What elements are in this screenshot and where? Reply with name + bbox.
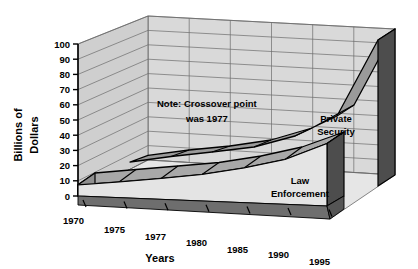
private-security-label-line1: Private	[320, 113, 352, 124]
x-axis-title: Years	[145, 252, 174, 264]
x-tick-label: 1977	[145, 231, 166, 242]
y-tick-label: 80	[59, 69, 70, 80]
x-tick-label: 1985	[227, 244, 249, 255]
private-security-label-line2: Security	[317, 126, 355, 137]
private-security-end-cap	[378, 29, 395, 186]
y-axis	[73, 44, 78, 196]
x-tick-label: 1970	[63, 215, 84, 226]
law-enforcement-end-cap	[327, 132, 344, 206]
x-tick-label: 1980	[186, 237, 207, 248]
law-enforcement-label-line1: Law	[291, 175, 310, 186]
chart-container: 100 90 80 70 60 50 40 30 20 10 0 Billion…	[0, 0, 418, 269]
x-tick-label: 1995	[309, 256, 331, 267]
y-tick-label: 90	[59, 54, 70, 65]
y-axis-title: Billions of Dollars	[12, 108, 40, 162]
law-enforcement-label-line2: Enforcement	[271, 188, 330, 199]
y-tick-label: 100	[54, 39, 70, 50]
y-tick-label: 30	[59, 145, 70, 156]
y-axis-title-line2: Dollars	[28, 116, 40, 153]
area-chart-3d: 100 90 80 70 60 50 40 30 20 10 0 Billion…	[0, 0, 418, 269]
y-tick-label: 40	[59, 130, 70, 141]
y-tick-label: 0	[65, 191, 70, 202]
crossover-note-line1: Note: Crossover point	[157, 98, 258, 109]
y-tick-label: 10	[59, 175, 70, 186]
y-tick-label: 20	[59, 160, 70, 171]
y-tick-label: 50	[59, 115, 70, 126]
x-tick-label: 1990	[268, 249, 289, 260]
y-axis-title-line1: Billions of	[12, 108, 24, 162]
y-tick-label: 60	[59, 99, 70, 110]
y-tick-labels: 100 90 80 70 60 50 40 30 20 10 0	[54, 39, 70, 202]
y-tick-label: 70	[59, 84, 70, 95]
x-tick-label: 1975	[104, 224, 126, 235]
x-tick-labels: 1970 1975 1977 1980 1985 1990 1995	[63, 215, 331, 267]
crossover-note-line2: was 1977	[185, 113, 228, 124]
